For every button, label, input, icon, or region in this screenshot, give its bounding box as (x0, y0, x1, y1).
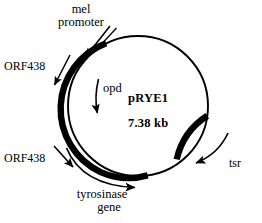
opd-pointer-icon (96, 79, 99, 113)
label-orf438-lower: ORF438 (4, 152, 45, 164)
label-tyrosinase-gene-line2: gene (56, 201, 148, 214)
label-tsr: tsr (229, 157, 241, 169)
label-tyrosinase-gene-line1: tyrosinase (77, 187, 128, 201)
label-tyrosinase-gene: tyrosinasegene (56, 188, 148, 214)
plasmid-backbone-circle (68, 36, 208, 176)
label-plasmid-size: 7.38 kb (128, 117, 168, 130)
label-opd: opd (103, 82, 122, 95)
label-mel-promoter: melpromoter (38, 3, 124, 29)
label-orf438-upper: ORF438 (4, 60, 45, 72)
plasmid-map-figure: melpromoter ORF438 opd ORF438 pRYE1 7.38… (0, 0, 262, 223)
label-mel-promoter-line2: promoter (58, 15, 104, 29)
tyrosinase-gene-arc (61, 43, 148, 178)
mel-promoter-pointer-icon (86, 26, 111, 57)
label-plasmid-name: pRYE1 (128, 92, 168, 105)
tsr-arc (177, 116, 208, 160)
